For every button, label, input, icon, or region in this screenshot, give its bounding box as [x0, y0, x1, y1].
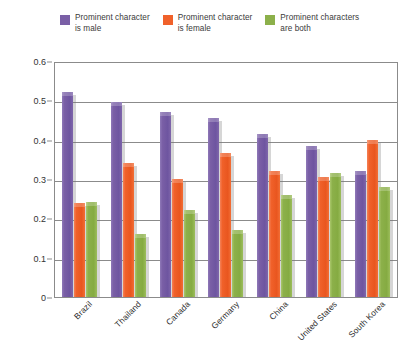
bar-highlight — [281, 195, 292, 199]
bar-highlight — [62, 92, 73, 96]
bar-face — [306, 146, 317, 297]
y-axis-tick-label: 0.4 — [33, 136, 46, 146]
bar-female — [269, 171, 280, 297]
legend-swatch-female-icon — [163, 15, 173, 25]
bar-face — [355, 171, 366, 297]
y-axis-tick-mark — [47, 298, 52, 299]
x-axis-tick-label: Canada — [164, 299, 192, 327]
bar-face — [111, 102, 122, 297]
bar-shadow — [146, 237, 149, 297]
bar-face — [232, 230, 243, 297]
bar-both — [330, 173, 341, 297]
bar-face — [74, 203, 85, 297]
bar-highlight — [232, 230, 243, 234]
bar-face — [123, 163, 134, 297]
bar-shadow — [97, 205, 100, 297]
legend-item-both: Prominent characters are both — [265, 13, 359, 34]
y-axis-tick-mark — [47, 219, 52, 220]
bar-highlight — [172, 179, 183, 183]
bar-highlight — [355, 171, 366, 175]
bar-highlight — [135, 234, 146, 238]
legend-label-female: Prominent character is female — [178, 13, 253, 34]
bar-face — [208, 118, 219, 297]
bar-highlight — [160, 112, 171, 116]
bar-face — [269, 171, 280, 297]
bar-highlight — [74, 203, 85, 207]
x-axis-tick-label: Thailand — [113, 299, 143, 329]
bar-highlight — [367, 140, 378, 144]
bar-shadow — [243, 233, 246, 297]
bar-highlight — [379, 187, 390, 191]
x-axis-tick-label: South Korea — [347, 299, 388, 340]
bar-group — [257, 63, 293, 297]
bar-male — [355, 171, 366, 297]
bar-male — [62, 92, 73, 297]
bar-highlight — [208, 118, 219, 122]
y-axis-tick-label: 0.2 — [33, 214, 46, 224]
bar-face — [62, 92, 73, 297]
legend-item-female: Prominent character is female — [163, 13, 253, 34]
bar-highlight — [318, 177, 329, 181]
bar-group — [110, 63, 146, 297]
bar-face — [257, 134, 268, 297]
x-axis-tick-label: Germany — [209, 299, 241, 331]
bar-male — [306, 146, 317, 297]
bar-female — [123, 163, 134, 297]
y-axis-tick-label: 0.5 — [33, 96, 46, 106]
plot-area — [54, 62, 398, 298]
y-axis-tick-mark — [47, 101, 52, 102]
x-axis-tick-label: China — [267, 299, 290, 322]
bar-female — [74, 203, 85, 297]
y-axis-tick-mark — [47, 258, 52, 259]
bar-female — [367, 140, 378, 297]
bar-highlight — [257, 134, 268, 138]
bar-highlight — [123, 163, 134, 167]
bar-female — [220, 153, 231, 297]
bar-face — [318, 177, 329, 297]
bar-group — [159, 63, 195, 297]
x-axis-tick-label: Brazil — [72, 299, 94, 321]
y-axis-tick-label: 0.6 — [33, 57, 46, 67]
bar-groups — [55, 63, 397, 297]
bar-highlight — [269, 171, 280, 175]
y-axis-tick-label: 0.3 — [33, 175, 46, 185]
bar-group — [208, 63, 244, 297]
y-axis-tick-label: 0 — [41, 293, 46, 303]
bar-both — [135, 234, 146, 297]
bar-male — [257, 134, 268, 297]
bar-both — [379, 187, 390, 297]
y-axis-tick-mark — [47, 62, 52, 63]
y-axis: 0.60.50.40.30.20.10 — [10, 55, 52, 305]
bar-face — [184, 210, 195, 297]
y-axis-tick-mark — [47, 140, 52, 141]
legend-label-both: Prominent characters are both — [280, 13, 359, 34]
bar-both — [281, 195, 292, 297]
bar-male — [208, 118, 219, 297]
legend-swatch-male-icon — [60, 15, 70, 25]
bar-face — [135, 234, 146, 297]
bar-face — [281, 195, 292, 297]
bar-male — [160, 112, 171, 297]
legend-label-male: Prominent character is male — [75, 13, 150, 34]
bar-face — [367, 140, 378, 297]
bar-face — [86, 202, 97, 297]
bar-shadow — [341, 176, 344, 297]
bar-both — [232, 230, 243, 297]
bar-both — [86, 202, 97, 297]
bar-group — [354, 63, 390, 297]
y-axis-tick-mark — [47, 180, 52, 181]
bar-face — [160, 112, 171, 297]
bar-shadow — [292, 198, 295, 297]
bar-highlight — [220, 153, 231, 157]
x-axis: BrazilThailandCanadaGermanyChinaUnited S… — [54, 299, 398, 351]
bar-face — [379, 187, 390, 297]
bar-shadow — [390, 190, 393, 297]
bar-highlight — [86, 202, 97, 206]
chart-legend: Prominent character is male Prominent ch… — [60, 13, 410, 45]
bar-female — [172, 179, 183, 297]
legend-item-male: Prominent character is male — [60, 13, 150, 34]
bar-both — [184, 210, 195, 297]
bar-face — [330, 173, 341, 297]
bar-group — [61, 63, 97, 297]
bar-male — [111, 102, 122, 297]
